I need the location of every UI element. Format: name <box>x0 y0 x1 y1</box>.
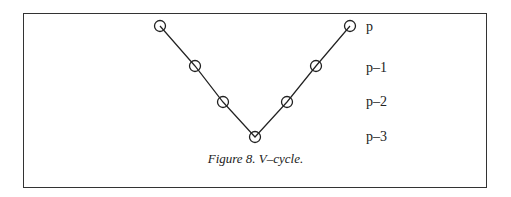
level-label-p-1: p–1 <box>366 61 387 75</box>
level-label-p-2: p–2 <box>366 95 387 109</box>
level-label-p-3: p–3 <box>366 130 387 144</box>
level-label-p: p <box>366 20 373 34</box>
v-cycle-diagram <box>0 0 511 197</box>
figure-caption: Figure 8. V–cycle. <box>0 151 511 167</box>
v-cycle-path <box>160 26 350 137</box>
